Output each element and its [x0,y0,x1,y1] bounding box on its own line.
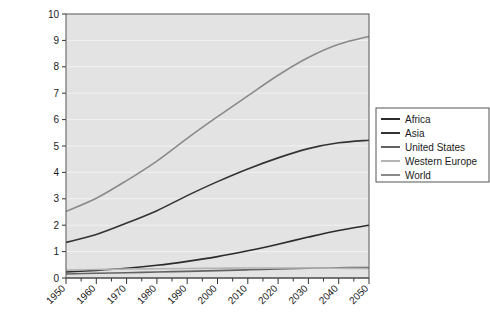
y-tick-label: 4 [53,167,59,178]
y-tick-label: 2 [53,220,59,231]
legend-label-western-europe: Western Europe [405,156,478,167]
x-axis: 1950196019701980199020002010202020302040… [44,278,371,306]
y-tick-label: 7 [53,88,59,99]
x-tick-label: 2010 [226,282,250,306]
x-tick-label: 2050 [347,282,371,306]
y-tick-label: 3 [53,193,59,204]
y-axis: 012345678910 [48,9,66,284]
chart-canvas: 012345678910 195019601970198019902000201… [0,0,490,318]
x-tick-label: 2040 [317,282,341,306]
x-tick-label: 1990 [165,282,189,306]
x-tick-label: 1970 [105,282,129,306]
legend: AfricaAsiaUnited StatesWestern EuropeWor… [376,108,489,182]
y-tick-label: 1 [53,246,59,257]
y-tick-label: 10 [48,9,60,20]
y-tick-label: 0 [53,273,59,284]
x-tick-label: 2020 [256,282,280,306]
y-tick-label: 9 [53,35,59,46]
line-chart: 012345678910 195019601970198019902000201… [0,0,490,318]
x-tick-label: 2030 [286,282,310,306]
legend-label-africa: Africa [405,114,431,125]
legend-label-asia: Asia [405,128,425,139]
x-tick-label: 1980 [135,282,159,306]
x-tick-label: 1960 [74,282,98,306]
y-tick-label: 8 [53,61,59,72]
y-tick-label: 6 [53,114,59,125]
legend-label-world: World [405,170,431,181]
x-tick-label: 1950 [44,282,68,306]
legend-label-united-states: United States [405,142,465,153]
y-tick-label: 5 [53,141,59,152]
x-tick-label: 2000 [195,282,219,306]
